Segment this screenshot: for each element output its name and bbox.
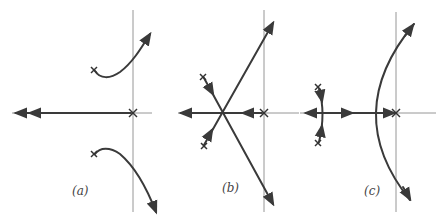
pole-x-icon <box>91 67 97 73</box>
pole-x-icon <box>315 140 321 146</box>
root-locus-figure: (a) (b) (c) <box>0 0 442 222</box>
panel-label: (b) <box>222 181 239 195</box>
panel-a: (a) <box>12 10 156 212</box>
panel-b: (b) <box>178 10 299 212</box>
arrow-icon <box>209 87 213 94</box>
panel-c: (c) <box>300 12 436 212</box>
asymptote-branch-2 <box>204 23 273 145</box>
panel-label: (a) <box>72 184 89 198</box>
lower-branch <box>95 149 156 212</box>
upper-branch <box>95 34 150 77</box>
pole-x-icon <box>315 84 321 90</box>
pole-x-icon <box>200 74 206 80</box>
arrow-icon <box>321 96 322 101</box>
panel-label: (c) <box>364 184 380 198</box>
arrow-icon <box>405 25 413 36</box>
arrow-icon <box>321 126 322 132</box>
